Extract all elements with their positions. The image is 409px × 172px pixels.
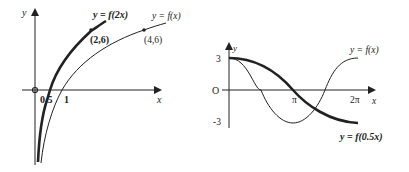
function-transformation-diagrams: y x 0.5 1 (2,6) (4,6) y = f(2x) y = f(x)… xyxy=(0,0,409,172)
left-y-label: y xyxy=(21,7,27,18)
curve-f-half-x-label: y = f(0.5x) xyxy=(339,131,383,143)
curve-f-x-label: y = f(x) xyxy=(151,11,181,22)
x-tick-2pi: 2π xyxy=(350,95,360,105)
point-2-6 xyxy=(89,28,93,32)
point-4-6 xyxy=(142,28,146,32)
point-2-6-label: (2,6) xyxy=(90,34,109,46)
right-x-label: x xyxy=(371,96,377,106)
curve-f-x-label-right: y = f(x) xyxy=(349,45,379,56)
x-tick-pi: π xyxy=(292,95,297,105)
right-y-label: y xyxy=(232,43,237,53)
tick-one: 1 xyxy=(64,94,69,105)
y-tick-3: 3 xyxy=(216,54,221,64)
origin-label: O xyxy=(212,85,219,96)
left-graph: y x 0.5 1 (2,6) (4,6) y = f(2x) y = f(x) xyxy=(21,7,181,165)
left-x-label: x xyxy=(156,94,162,105)
point-4-6-label: (4,6) xyxy=(144,35,162,46)
curve-f-2x-label: y = f(2x) xyxy=(92,9,128,21)
y-tick-neg3: -3 xyxy=(213,117,221,127)
right-graph: y x O 3 -3 π 2π y = f(x) y = f(0.5x) xyxy=(212,43,383,143)
